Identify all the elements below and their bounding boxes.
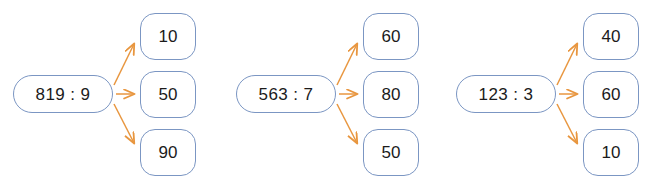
result-label: 40 [602, 28, 621, 45]
result-label: 50 [159, 86, 178, 103]
result-node[interactable]: 90 [140, 129, 196, 176]
result-node[interactable]: 60 [583, 71, 639, 118]
diagram-root: 819 : 9 10 50 90 563 : 7 60 [0, 0, 645, 185]
source-node-1[interactable]: 819 : 9 [13, 75, 113, 113]
arrow-to-result-1 [114, 44, 134, 85]
source-node-3[interactable]: 123 : 3 [456, 75, 556, 113]
result-label: 10 [159, 28, 178, 45]
arrow-to-result-3 [114, 104, 134, 143]
result-node[interactable]: 50 [140, 71, 196, 118]
arrow-to-result-1 [557, 44, 577, 85]
arrow-to-result-3 [337, 104, 357, 143]
result-node[interactable]: 50 [363, 129, 419, 176]
result-label: 10 [602, 144, 621, 161]
result-label: 80 [382, 86, 401, 103]
result-node[interactable]: 10 [140, 13, 196, 60]
result-node[interactable]: 10 [583, 129, 639, 176]
source-label: 563 : 7 [259, 86, 314, 103]
division-group-1: 819 : 9 10 50 90 [0, 0, 215, 185]
result-node[interactable]: 60 [363, 13, 419, 60]
source-node-2[interactable]: 563 : 7 [236, 75, 336, 113]
division-group-3: 123 : 3 40 60 10 [443, 0, 645, 185]
source-label: 819 : 9 [36, 86, 91, 103]
result-node[interactable]: 40 [583, 13, 639, 60]
division-group-2: 563 : 7 60 80 50 [223, 0, 438, 185]
source-label: 123 : 3 [479, 86, 534, 103]
result-label: 90 [159, 144, 178, 161]
result-label: 60 [602, 86, 621, 103]
result-node[interactable]: 80 [363, 71, 419, 118]
result-label: 50 [382, 144, 401, 161]
arrow-to-result-3 [557, 104, 577, 143]
arrow-to-result-1 [337, 44, 357, 85]
result-label: 60 [382, 28, 401, 45]
